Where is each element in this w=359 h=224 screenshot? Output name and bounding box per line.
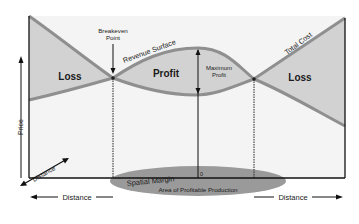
price-axis-arrow [19,56,24,63]
distance-label-right: Distance [278,193,307,202]
distance-label-left: Distance [62,193,91,202]
profit-label: Profit [153,68,180,79]
breakeven-point-right [252,77,256,81]
origin-label: 0 [200,171,203,177]
distance-axis-left-arrow [30,195,37,200]
distance-axis-right-arrow [336,195,343,200]
loss-label-left: Loss [58,71,82,82]
max-profit-label-line1: Maximum [206,65,232,71]
price-axis-label: Price [17,119,24,135]
spatial-margin-diagram: Loss Profit Loss Breakeven Point Maximum… [0,0,359,224]
area-profitable-label: Area of Profitable Production [158,186,238,193]
max-profit-label-line2: Profit [212,72,226,78]
breakeven-label-line2: Point [106,34,120,41]
loss-label-right: Loss [288,72,312,83]
breakeven-label-line1: Breakeven [98,27,128,34]
breakeven-point-left [111,76,115,80]
